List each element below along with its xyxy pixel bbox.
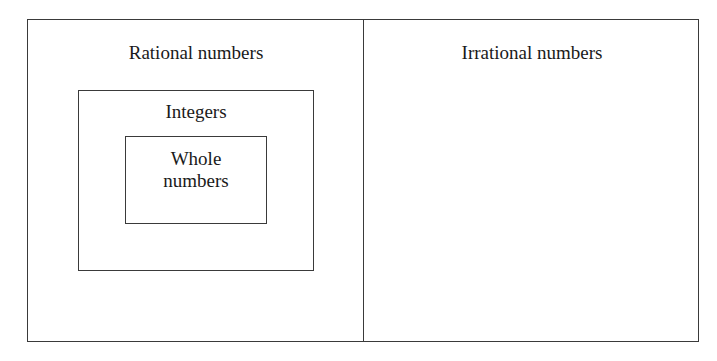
whole-numbers-box: Whole numbers <box>125 136 267 224</box>
rational-irrational-divider <box>363 20 364 341</box>
whole-numbers-label-line1: Whole <box>126 148 266 170</box>
whole-numbers-label-line2: numbers <box>126 170 266 192</box>
rational-numbers-label: Rational numbers <box>28 42 364 64</box>
integers-label: Integers <box>79 101 313 123</box>
whole-numbers-label: Whole numbers <box>126 148 266 192</box>
irrational-numbers-label: Irrational numbers <box>364 42 700 64</box>
